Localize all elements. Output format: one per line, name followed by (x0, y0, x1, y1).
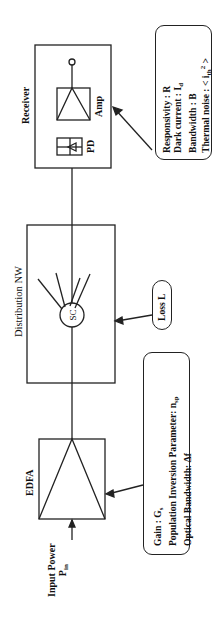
edfa-amplifier-triangle (39, 439, 105, 519)
star-coupler-label: SC (68, 309, 78, 320)
splitter-branch (75, 274, 90, 308)
input-arrowhead (69, 520, 75, 527)
loss-box: Loss L (152, 280, 172, 330)
edfa-box (39, 439, 105, 519)
receiver-amp-box (57, 88, 90, 120)
input-power-label: Input Power Pin (46, 543, 72, 597)
amp-label: Amp (93, 96, 104, 117)
edfa-title: EDFA (24, 470, 35, 496)
splitter-branch (56, 273, 65, 307)
edfa-parameters-box: Gain : Gs Population Inversion Parameter… (143, 352, 190, 555)
receiver-title: Receiver (20, 87, 31, 124)
receiver-parameters-box: Responsivity : R Dark current : Id Bandw… (155, 25, 212, 160)
optical-link-diagram: SC EDFA Distribution NW Receiver PD Amp … (0, 0, 218, 637)
output-terminal (69, 59, 75, 65)
receiver-amp-triangle (57, 88, 90, 120)
receiver-param-pointer (114, 108, 152, 150)
photodiode-label: PD (85, 140, 96, 153)
distribution-title: Distribution NW (13, 266, 24, 337)
